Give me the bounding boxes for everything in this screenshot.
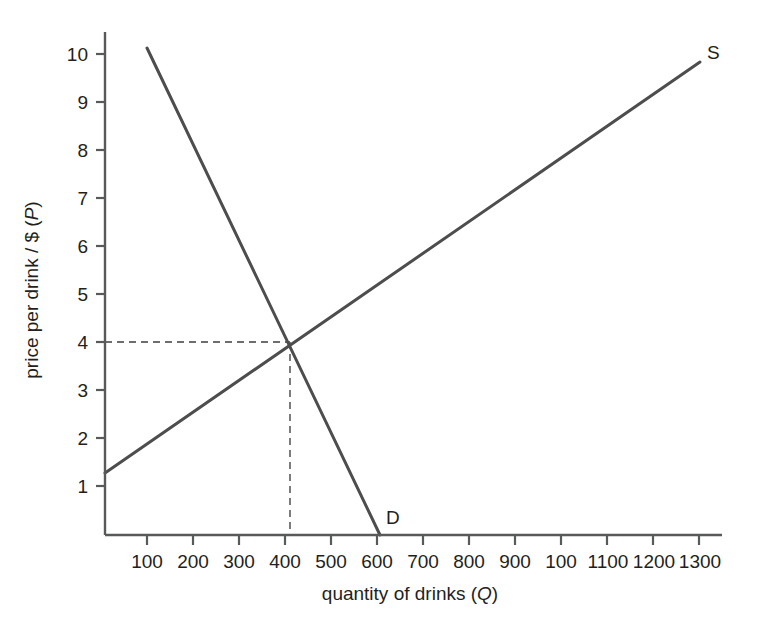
x-axis-title: quantity of drinks (Q) xyxy=(322,583,498,604)
x-tick-label-700: 700 xyxy=(407,551,439,572)
x-tick-label-1000: 100 xyxy=(545,551,577,572)
y-tick-label-7: 7 xyxy=(77,188,88,209)
y-tick-label-3: 3 xyxy=(77,380,88,401)
chart-background xyxy=(0,0,761,632)
x-tick-label-800: 800 xyxy=(453,551,485,572)
supply-demand-chart: 1 2 3 4 5 6 7 8 9 10 xyxy=(0,0,761,632)
y-tick-label-8: 8 xyxy=(77,140,88,161)
demand-curve-label: D xyxy=(386,507,400,528)
x-tick-label-200: 200 xyxy=(177,551,209,572)
x-axis-title-tail: ) xyxy=(492,583,498,604)
x-tick-label-1100: 1100 xyxy=(588,551,629,572)
supply-curve-label: S xyxy=(707,42,720,63)
x-tick-label-900: 900 xyxy=(499,551,531,572)
x-tick-label-300: 300 xyxy=(223,551,255,572)
y-axis-title-tail: ) xyxy=(21,201,42,207)
y-axis-title-text: price per drink / $ ( xyxy=(21,220,42,379)
x-tick-label-1200: 1200 xyxy=(633,551,675,572)
y-tick-label-9: 9 xyxy=(77,92,88,113)
x-tick-label-100: 100 xyxy=(131,551,163,572)
x-axis-title-symbol: Q xyxy=(477,583,492,604)
y-axis-title: price per drink / $ (P) xyxy=(21,201,42,378)
y-tick-label-2: 2 xyxy=(77,428,88,449)
y-tick-label-5: 5 xyxy=(77,284,88,305)
y-tick-label-1: 1 xyxy=(77,476,88,497)
x-axis-title-text: quantity of drinks ( xyxy=(322,583,478,604)
x-tick-label-500: 500 xyxy=(315,551,347,572)
y-tick-label-10: 10 xyxy=(67,44,88,65)
x-tick-label-1300: 1300 xyxy=(679,551,721,572)
y-tick-label-6: 6 xyxy=(77,236,88,257)
y-axis-title-symbol: P xyxy=(21,207,42,220)
x-tick-label-400: 400 xyxy=(269,551,301,572)
y-tick-label-4: 4 xyxy=(77,332,88,353)
chart-canvas: 1 2 3 4 5 6 7 8 9 10 xyxy=(0,0,761,632)
x-tick-label-600: 600 xyxy=(361,551,393,572)
